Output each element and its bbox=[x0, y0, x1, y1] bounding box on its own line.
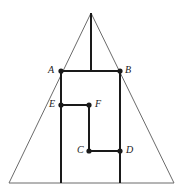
vertex-label-E: E bbox=[49, 99, 55, 109]
vertex-dot-D bbox=[117, 148, 122, 153]
vertex-dot-B bbox=[117, 68, 122, 73]
inner-polyline-group bbox=[61, 71, 120, 183]
vertex-dot-group bbox=[58, 68, 122, 153]
vertex-dot-C bbox=[86, 148, 91, 153]
vertex-label-A: A bbox=[48, 65, 54, 75]
vertex-label-B: B bbox=[125, 65, 131, 75]
vertex-label-C: C bbox=[77, 145, 84, 155]
vertex-dot-F bbox=[86, 102, 91, 107]
figure-canvas: ABEFCD bbox=[0, 0, 189, 195]
vertex-label-D: D bbox=[126, 145, 133, 155]
vertex-dot-A bbox=[58, 68, 63, 73]
vertex-label-F: F bbox=[95, 99, 101, 109]
vertex-dot-E bbox=[58, 102, 63, 107]
